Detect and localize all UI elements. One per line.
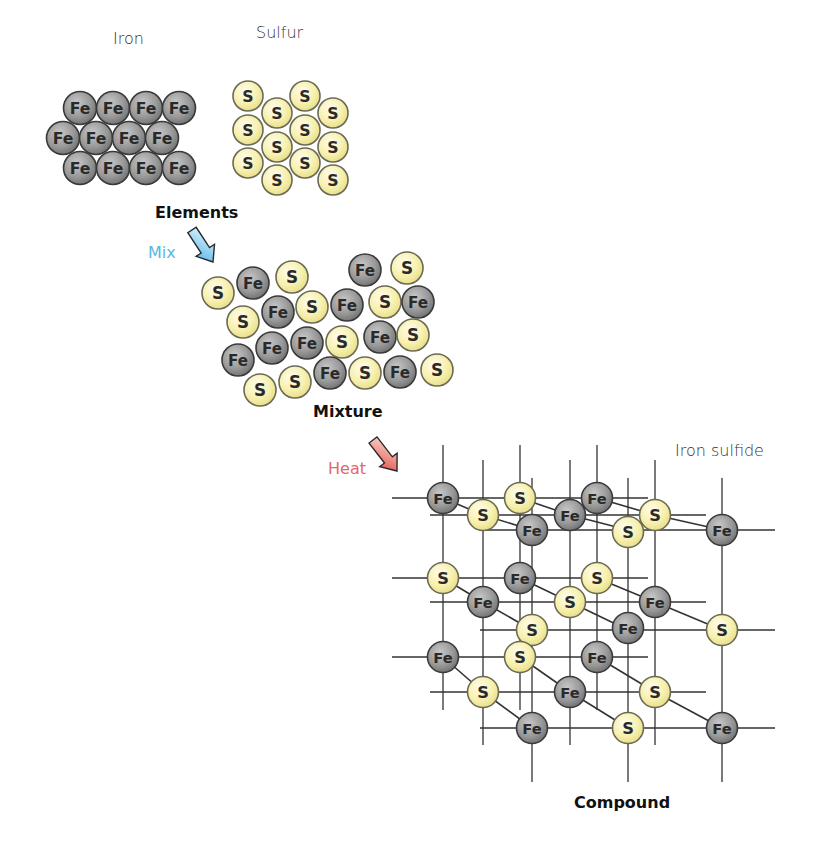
mixture-label: Mixture [313,402,383,421]
svg-text:S: S [622,523,634,542]
iron-atom: Fe [364,321,396,353]
sulfur-atom: S [318,132,348,162]
svg-text:Fe: Fe [618,620,637,637]
svg-text:S: S [327,104,338,123]
sulfur-atom: S [505,642,536,673]
iron-atom: Fe [402,286,434,318]
svg-text:S: S [649,506,661,525]
iron-atom: Fe [384,356,416,388]
iron-atom: Fe [468,587,499,618]
sulfur-atom: S [326,326,358,358]
svg-text:Fe: Fe [390,364,410,382]
iron-atom: Fe [349,254,381,286]
svg-text:Fe: Fe [522,720,541,737]
sulfur-atom: S [421,354,453,386]
sulfur-atom: S [233,148,263,178]
svg-text:S: S [327,171,338,190]
svg-text:S: S [431,360,443,380]
svg-text:Fe: Fe [560,684,579,701]
sulfur-atom: S [290,81,320,111]
svg-text:Fe: Fe [243,275,263,293]
svg-text:S: S [407,325,419,345]
svg-text:S: S [477,683,489,702]
iron-atom: Fe [291,327,323,359]
svg-text:S: S [477,506,489,525]
sulfur-atom: S [318,98,348,128]
svg-text:Fe: Fe [70,99,91,118]
svg-text:Fe: Fe [119,129,140,148]
sulfur-atom: S [296,291,328,323]
svg-text:Fe: Fe [337,297,357,315]
iron-atom: Fe [163,92,196,125]
sulfur-atom: S [290,148,320,178]
svg-text:Fe: Fe [370,329,390,347]
elements-label: Elements [155,203,238,222]
svg-text:Fe: Fe [136,159,157,178]
svg-text:S: S [716,621,728,640]
sulfur-atom: S [505,483,536,514]
sulfur-atom: S [276,261,308,293]
iron-atom: Fe [64,152,97,185]
svg-text:Fe: Fe [522,522,541,539]
iron-atom: Fe [130,152,163,185]
heat-arrow-icon [364,433,405,477]
sulfur-atom: S [262,132,292,162]
compound-label: Compound [574,793,670,812]
iron-label: Iron [113,29,144,48]
iron-atom: Fe [517,515,548,546]
svg-text:Fe: Fe [86,129,107,148]
svg-text:S: S [242,87,253,106]
svg-text:S: S [514,489,526,508]
svg-text:Fe: Fe [103,99,124,118]
iron-atom: Fe [707,713,738,744]
sulfur-atom: S [318,165,348,195]
svg-text:S: S [289,372,301,392]
svg-text:S: S [514,648,526,667]
svg-text:S: S [242,154,253,173]
svg-text:S: S [437,569,449,588]
svg-text:Fe: Fe [169,159,190,178]
svg-text:Fe: Fe [355,262,375,280]
svg-text:S: S [359,363,371,383]
iron-atom: Fe [130,92,163,125]
iron-atom: Fe [555,677,586,708]
sulfur-atom: S [227,306,259,338]
sulfur-atom: S [279,366,311,398]
svg-text:Fe: Fe [587,490,606,507]
sulfur-atom: S [244,374,276,406]
svg-text:Fe: Fe [712,720,731,737]
iron-atom: Fe [613,613,644,644]
svg-text:S: S [564,593,576,612]
svg-text:Fe: Fe [228,352,248,370]
svg-text:Fe: Fe [587,649,606,666]
sulfur-atom: S [468,500,499,531]
sulfur-atom: S [468,677,499,708]
svg-text:Fe: Fe [152,129,173,148]
sulfur-atom: S [349,357,381,389]
iron-atom: Fe [163,152,196,185]
iron-atom: Fe [262,296,294,328]
svg-text:S: S [336,332,348,352]
iron-atom: Fe [222,344,254,376]
svg-text:Fe: Fe [103,159,124,178]
svg-text:Fe: Fe [433,649,452,666]
sulfur-label: Sulfur [256,23,303,42]
svg-text:S: S [286,267,298,287]
svg-text:Fe: Fe [408,294,428,312]
svg-text:S: S [299,87,310,106]
sulfur-atom: S [391,252,423,284]
sulfur-atom: S [233,81,263,111]
svg-text:Fe: Fe [473,594,492,611]
iron-atom: Fe [555,500,586,531]
iron-atom: Fe [97,92,130,125]
svg-text:S: S [526,621,538,640]
iron-atom: Fe [256,332,288,364]
svg-text:S: S [237,312,249,332]
iron-atom: Fe [47,122,80,155]
iron-atom: Fe [331,289,363,321]
sulfur-atom: S [290,115,320,145]
svg-text:S: S [299,154,310,173]
iron-atom: Fe [640,587,671,618]
iron-atom: Fe [517,713,548,744]
svg-text:S: S [254,380,266,400]
